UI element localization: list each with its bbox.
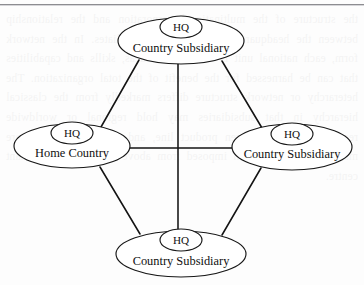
node-left-hq-label: HQ: [64, 127, 80, 139]
node-right-label: Country Subsidiary: [244, 147, 342, 161]
node-left: HQHome Country: [14, 122, 130, 168]
node-top-label: Country Subsidiary: [133, 41, 231, 55]
connector-diagonal-top-right: [222, 61, 262, 128]
node-right-hq-label: HQ: [284, 128, 300, 140]
network-organization-diagram: HQCountry SubsidiaryHQHome CountryHQCoun…: [0, 0, 364, 285]
node-top: HQCountry Subsidiary: [118, 16, 244, 64]
connector-diagonal-right-bottom: [222, 168, 261, 235]
node-top-hq-label: HQ: [173, 21, 189, 33]
connector-diagonal-top-left: [101, 60, 139, 127]
node-bottom: HQCountry Subsidiary: [116, 229, 246, 277]
diagram-nodes: HQCountry SubsidiaryHQHome CountryHQCoun…: [14, 16, 352, 277]
node-right: HQCountry Subsidiary: [232, 123, 352, 170]
scanned-page: the structure of the multinational corpo…: [0, 0, 364, 285]
node-bottom-label: Country Subsidiary: [133, 254, 231, 268]
node-bottom-hq-label: HQ: [173, 234, 189, 246]
connector-diagonal-left-bottom: [100, 167, 140, 234]
node-left-label: Home Country: [35, 146, 110, 160]
